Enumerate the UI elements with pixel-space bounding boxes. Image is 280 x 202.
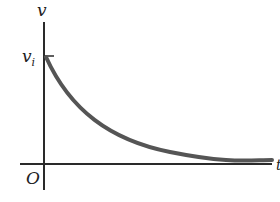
velocity-decay-diagram: v vi O t (0, 0, 280, 202)
decay-curve (46, 57, 272, 161)
x-axis-label: t (276, 157, 280, 173)
vi-label: vi (22, 46, 35, 69)
origin-label: O (26, 168, 40, 188)
y-axis-label: v (37, 0, 47, 20)
